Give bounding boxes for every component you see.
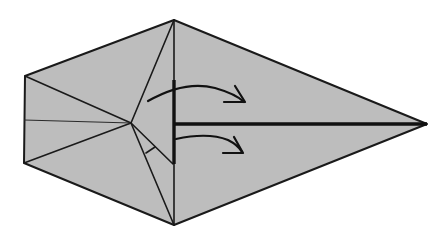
origami-diagram	[0, 0, 432, 232]
